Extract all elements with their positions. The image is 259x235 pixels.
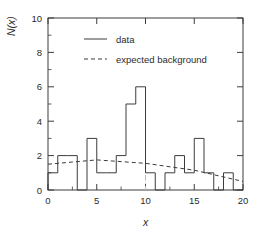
chart-figure: 0 2 4 6 8 10 N(x) 0 5 10 bbox=[0, 0, 259, 235]
x-tick-label-0: 0 bbox=[45, 195, 50, 206]
y-tick-label-10: 10 bbox=[31, 13, 42, 24]
legend-label-expected-background: expected background bbox=[116, 54, 207, 65]
y-tick-label-6: 6 bbox=[37, 81, 42, 92]
y-tick-label-0: 0 bbox=[37, 185, 42, 196]
x-tick-label-5: 5 bbox=[94, 195, 99, 206]
chart-legend: data expected background bbox=[84, 34, 207, 65]
x-axis: 0 5 10 15 20 x bbox=[45, 18, 248, 228]
y-tick-label-8: 8 bbox=[37, 47, 42, 58]
x-axis-title: x bbox=[142, 216, 149, 228]
x-tick-label-20: 20 bbox=[238, 195, 249, 206]
y-axis-title: N(x) bbox=[5, 16, 17, 36]
y-tick-label-4: 4 bbox=[37, 116, 42, 127]
x-tick-label-10: 10 bbox=[140, 195, 151, 206]
x-tick-label-15: 15 bbox=[189, 195, 200, 206]
histogram-chart: 0 2 4 6 8 10 N(x) 0 5 10 bbox=[0, 0, 259, 235]
data-histogram-step bbox=[48, 87, 243, 190]
legend-label-data: data bbox=[116, 34, 135, 45]
y-tick-label-2: 2 bbox=[37, 150, 42, 161]
